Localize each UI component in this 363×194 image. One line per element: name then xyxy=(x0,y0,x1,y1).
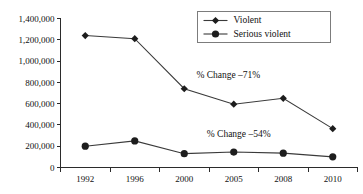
y-tick-label: 200,000 xyxy=(25,141,55,151)
chart-annotation: % Change –54% xyxy=(207,129,271,139)
y-tick-label: 600,000 xyxy=(25,99,55,109)
x-tick-label: 2010 xyxy=(324,174,343,184)
y-tick-label: 800,000 xyxy=(25,78,55,88)
chart-legend[interactable]: ViolentSerious violent xyxy=(198,12,331,43)
y-axis-tick-marks xyxy=(57,19,61,168)
y-tick-label: 1,000,000 xyxy=(19,56,56,66)
x-tick-label: 1992 xyxy=(76,174,94,184)
data-point-marker xyxy=(230,148,237,155)
data-point-marker xyxy=(280,95,287,102)
x-tick-label: 2000 xyxy=(175,174,194,184)
data-point-marker xyxy=(82,143,89,150)
data-point-marker xyxy=(82,32,89,39)
y-tick-label: 0 xyxy=(50,163,55,173)
series-line xyxy=(85,36,333,129)
data-point-marker xyxy=(329,153,336,160)
data-point-marker xyxy=(230,101,237,108)
data-point-marker xyxy=(329,125,336,132)
chart-annotation: % Change –71% xyxy=(196,70,260,80)
y-axis-tick-labels: 0200,000400,000600,000800,0001,000,0001,… xyxy=(19,14,56,173)
legend-label: Serious violent xyxy=(234,29,292,39)
x-axis-tick-marks xyxy=(61,168,358,172)
data-point-marker xyxy=(280,150,287,157)
x-axis-tick-labels: 199219962000200520082010 xyxy=(76,174,342,184)
series-1 xyxy=(82,32,337,132)
x-tick-label: 2005 xyxy=(225,174,244,184)
y-tick-label: 400,000 xyxy=(25,120,55,130)
data-point-marker xyxy=(181,150,188,157)
chart-canvas: 0200,000400,000600,000800,0001,000,0001,… xyxy=(0,0,363,194)
data-series-layer xyxy=(82,32,337,161)
series-2 xyxy=(82,137,337,160)
x-tick-label: 1996 xyxy=(126,174,145,184)
violent-crime-line-chart: 0200,000400,000600,000800,0001,000,0001,… xyxy=(0,0,363,194)
legend-marker-circle xyxy=(212,30,219,37)
y-tick-label: 1,400,000 xyxy=(19,14,56,24)
legend-label: Violent xyxy=(234,15,262,25)
series-line xyxy=(85,141,333,157)
y-tick-label: 1,200,000 xyxy=(19,35,56,45)
data-point-marker xyxy=(131,137,138,144)
x-tick-label: 2008 xyxy=(274,174,293,184)
